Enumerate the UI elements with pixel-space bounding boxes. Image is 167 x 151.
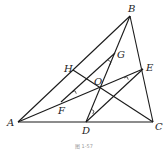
label-G: G — [117, 49, 125, 60]
label-A: A — [6, 117, 14, 128]
segment-AB — [18, 16, 130, 122]
segment-HC — [73, 70, 153, 122]
label-D: D — [81, 125, 90, 136]
geometry-diagram: A B C D E F G H O 图 1-57 — [0, 0, 167, 151]
label-O: O — [94, 76, 102, 87]
label-F: F — [57, 105, 66, 116]
segment-BD — [86, 16, 130, 122]
segment-AE — [18, 69, 143, 122]
label-E: E — [145, 62, 154, 73]
label-H: H — [63, 63, 73, 74]
segment-FG — [61, 53, 115, 102]
label-C: C — [155, 121, 163, 132]
label-B: B — [127, 3, 135, 14]
figure-caption: 图 1-57 — [75, 143, 93, 150]
